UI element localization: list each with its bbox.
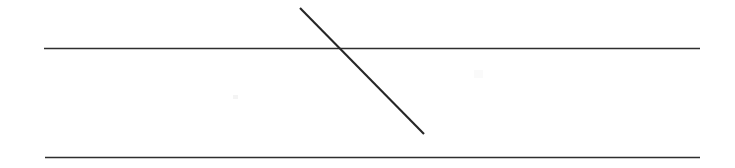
figure-svg	[0, 0, 735, 168]
figure-background	[0, 0, 735, 168]
scan-speck-right-artifact	[474, 70, 483, 78]
line-figure-canvas: Two parallel horizontal lines crossed by…	[0, 0, 735, 168]
scan-speck-left-artifact	[233, 95, 238, 99]
